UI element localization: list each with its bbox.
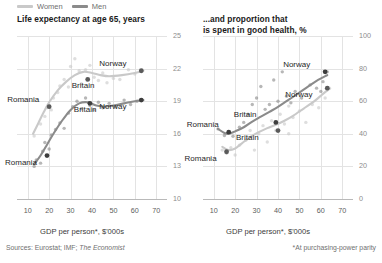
scatter-point xyxy=(84,96,87,99)
y-axis-tick: 100 xyxy=(359,32,371,39)
scatter-point xyxy=(43,115,46,118)
x-axis-tick: 30 xyxy=(67,207,75,214)
scatter-point xyxy=(317,106,320,109)
point-label-romania: Romania xyxy=(5,159,37,167)
point-label-britain: Britain xyxy=(74,106,97,114)
scatter-point xyxy=(263,108,266,111)
sources-note: Sources: Eurostat; IMF; The Economist xyxy=(6,245,125,252)
point-label-britain: Britain xyxy=(234,111,257,119)
scatter-point xyxy=(261,124,264,127)
x-axis-tick: 40 xyxy=(274,207,282,214)
point-label-romania: Romania xyxy=(7,96,39,104)
scatter-point xyxy=(62,78,65,81)
scatter-point xyxy=(127,68,130,71)
x-axis-tick: 30 xyxy=(253,207,261,214)
scatter-point xyxy=(233,153,236,156)
scatter-point xyxy=(62,127,65,130)
scatter-point xyxy=(287,104,290,107)
point-label-norway: Norway xyxy=(283,61,310,69)
highlight-point-romania xyxy=(226,130,231,135)
scatter-point xyxy=(39,161,42,164)
y-axis-tick: 22 xyxy=(173,65,181,72)
scatter-point xyxy=(73,57,76,60)
point-label-romania: Romania xyxy=(185,155,217,163)
scatter-point xyxy=(43,141,46,144)
scatter-point xyxy=(289,101,292,104)
highlight-point-britain xyxy=(276,128,281,133)
scatter-point xyxy=(268,103,271,106)
scatter-point xyxy=(221,148,224,151)
highlight-point-norway xyxy=(139,98,144,103)
chart-title-right: ...and proportion that is spent in good … xyxy=(203,14,307,35)
y-axis-tick: 10 xyxy=(173,195,181,202)
scatter-point xyxy=(251,103,254,106)
scatter-point xyxy=(253,148,256,151)
scatter-point xyxy=(88,64,91,67)
y-axis-tick: 80 xyxy=(359,65,367,72)
scatter-point xyxy=(283,122,286,125)
highlight-point-romania xyxy=(45,153,50,158)
y-axis-tick: 16 xyxy=(173,130,181,137)
highlight-point-norway xyxy=(323,69,328,74)
scatter-point xyxy=(242,121,245,124)
highlight-point-norway xyxy=(325,86,330,91)
scatter-point xyxy=(248,129,251,132)
sources-publication: The Economist xyxy=(79,244,124,251)
scatter-point xyxy=(323,96,326,99)
x-axis-tick: 70 xyxy=(152,207,160,214)
scatter-point xyxy=(101,71,104,74)
plot-area-left: RomaniaBritainNorwayRomaniaBritainNorway… xyxy=(17,36,167,199)
scatter-point xyxy=(47,147,50,150)
x-axis-tick: 70 xyxy=(338,207,346,214)
scatter-point xyxy=(92,76,95,79)
scatter-point xyxy=(255,96,258,99)
scatter-point xyxy=(270,119,273,122)
chart-title-left: Life expectancy at age 65, years xyxy=(17,14,145,25)
scatter-point xyxy=(281,70,284,73)
scatter-point xyxy=(69,65,72,68)
series-canvas xyxy=(203,36,353,199)
x-axis-title-left: GDP per person*, $'000s xyxy=(40,228,124,236)
x-axis-tick: 60 xyxy=(131,207,139,214)
scatter-point xyxy=(97,79,100,82)
scatter-point xyxy=(67,85,70,88)
scatter-point xyxy=(321,80,324,83)
scatter-point xyxy=(319,90,322,93)
x-axis-tick: 50 xyxy=(109,207,117,214)
scatter-point xyxy=(304,121,307,124)
scatter-point xyxy=(315,86,318,89)
sources-prefix: Sources: Eurostat; IMF; xyxy=(6,244,79,251)
plot-area-right: RomaniaBritainNorwayRomaniaBritainNorway… xyxy=(203,36,353,199)
point-label-romania: Romania xyxy=(187,121,219,129)
x-axis-line xyxy=(203,199,353,200)
scatter-point xyxy=(259,85,262,88)
scatter-point xyxy=(278,113,281,116)
highlight-point-norway xyxy=(139,68,144,73)
scatter-point xyxy=(231,135,234,138)
scatter-point xyxy=(272,78,275,81)
y-axis-tick: 0 xyxy=(359,195,363,202)
y-axis-tick: 19 xyxy=(173,97,181,104)
y-axis-tick: 13 xyxy=(173,162,181,169)
x-axis-tick: 10 xyxy=(210,207,218,214)
ppp-note: *At purchasing-power parity xyxy=(293,245,377,252)
x-axis-tick: 50 xyxy=(295,207,303,214)
scatter-point xyxy=(276,100,279,103)
x-axis-title-right: GDP per person*, $'000s xyxy=(226,228,310,236)
y-axis-tick: 25 xyxy=(173,32,181,39)
y-axis-tick: 20 xyxy=(359,162,367,169)
scatter-point xyxy=(112,77,115,80)
point-label-britain: Britain xyxy=(236,134,259,142)
scatter-point xyxy=(287,132,290,135)
chart-panel-right: ...and proportion that is spent in good … xyxy=(191,0,382,263)
point-label-norway: Norway xyxy=(99,103,126,111)
x-axis-tick: 60 xyxy=(317,207,325,214)
series-canvas xyxy=(17,36,167,199)
x-axis-line xyxy=(17,199,167,200)
point-label-norway: Norway xyxy=(99,60,126,68)
x-axis-tick: 20 xyxy=(45,207,53,214)
highlight-point-britain xyxy=(273,120,278,125)
scatter-point xyxy=(75,100,78,103)
x-axis-tick: 10 xyxy=(24,207,32,214)
y-axis-tick: 60 xyxy=(359,97,367,104)
